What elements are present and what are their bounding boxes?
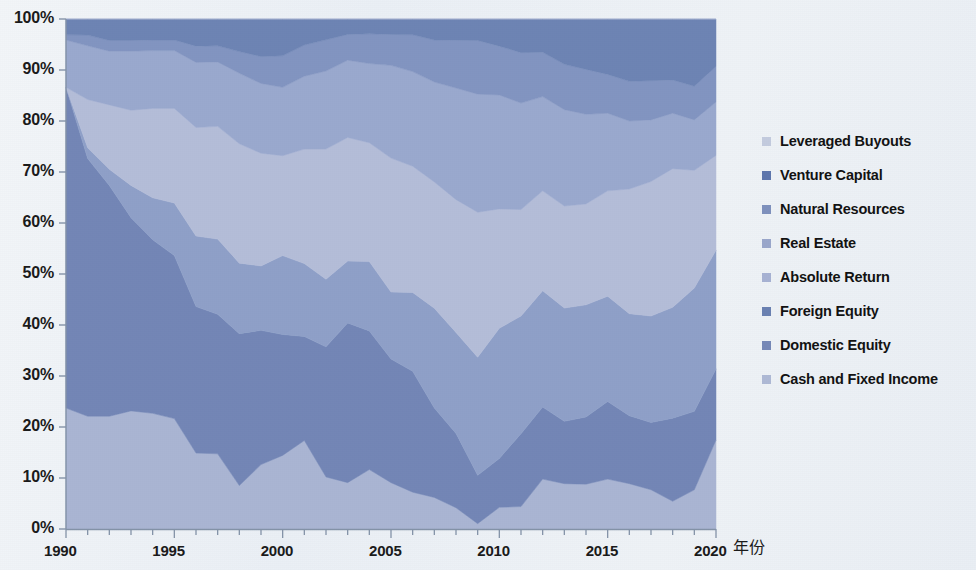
legend-label: Venture Capital <box>780 167 883 183</box>
legend-item[interactable]: Venture Capital <box>762 158 974 192</box>
legend-swatch-icon <box>762 205 771 214</box>
y-tick-label: 70% <box>23 162 54 180</box>
legend-swatch-icon <box>762 375 771 384</box>
y-tick-label: 0% <box>31 519 54 537</box>
legend-swatch-icon <box>762 171 771 180</box>
legend-label: Real Estate <box>780 235 856 251</box>
legend-item[interactable]: Absolute Return <box>762 260 974 294</box>
y-tick-label: 30% <box>23 366 54 384</box>
legend-label: Cash and Fixed Income <box>780 371 938 387</box>
x-tick-label: 2015 <box>586 542 619 559</box>
y-tick-label: 60% <box>23 213 54 231</box>
legend-swatch-icon <box>762 307 771 316</box>
x-tick-label: 2005 <box>369 542 402 559</box>
y-tick-label: 40% <box>23 315 54 333</box>
legend-label: Leveraged Buyouts <box>780 133 911 149</box>
x-tick-label: 2000 <box>261 542 294 559</box>
y-tick-label: 20% <box>23 417 54 435</box>
y-tick-marks <box>59 19 66 529</box>
x-tick-label: 2010 <box>477 542 510 559</box>
x-tick-label: 1990 <box>44 542 77 559</box>
legend-label: Foreign Equity <box>780 303 879 319</box>
y-tick-label: 80% <box>23 111 54 129</box>
y-tick-label: 50% <box>23 264 54 282</box>
legend-swatch-icon <box>762 137 771 146</box>
legend-swatch-icon <box>762 273 771 282</box>
y-tick-label: 90% <box>23 60 54 78</box>
stacked-area-chart: 100%90%80%70%60%50%40%30%20%10%0% 199019… <box>0 0 976 570</box>
legend-label: Domestic Equity <box>780 337 891 353</box>
y-tick-label: 100% <box>14 9 54 27</box>
legend-label: Absolute Return <box>780 269 890 285</box>
chart-legend: Leveraged BuyoutsVenture CapitalNatural … <box>762 124 974 396</box>
legend-item[interactable]: Foreign Equity <box>762 294 974 328</box>
legend-item[interactable]: Leveraged Buyouts <box>762 124 974 158</box>
x-axis-title: 年份 <box>733 534 765 558</box>
x-tick-label: 2020 <box>694 542 727 559</box>
legend-item[interactable]: Real Estate <box>762 226 974 260</box>
area-series-group <box>66 19 716 529</box>
y-tick-label: 10% <box>23 468 54 486</box>
legend-item[interactable]: Cash and Fixed Income <box>762 362 974 396</box>
x-tick-marks <box>66 529 716 538</box>
x-tick-label: 1995 <box>152 542 185 559</box>
legend-label: Natural Resources <box>780 201 905 217</box>
legend-item[interactable]: Natural Resources <box>762 192 974 226</box>
legend-item[interactable]: Domestic Equity <box>762 328 974 362</box>
legend-swatch-icon <box>762 239 771 248</box>
legend-swatch-icon <box>762 341 771 350</box>
